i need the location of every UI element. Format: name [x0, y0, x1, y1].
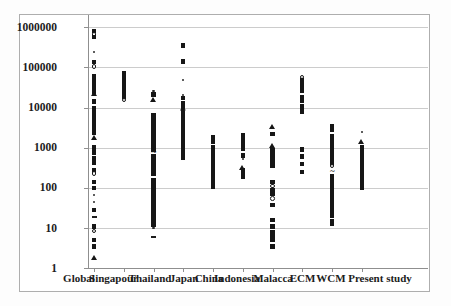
data-point	[92, 64, 97, 69]
data-point	[181, 96, 185, 100]
data-point	[300, 147, 304, 151]
data-point	[92, 99, 96, 103]
y-tick-1000000	[84, 27, 88, 28]
data-point	[270, 244, 274, 248]
gridline-1000000	[88, 27, 428, 28]
data-point	[270, 196, 275, 201]
data-point	[358, 139, 364, 144]
gridline-100	[88, 188, 428, 189]
scatter-chart-figure: 1000000100000100001000100101 GlobalSinga…	[0, 0, 451, 306]
y-tick-1000	[84, 148, 88, 149]
data-point	[151, 92, 155, 96]
data-point	[300, 154, 304, 158]
y-axis-label-100: 100	[11, 181, 57, 193]
data-point	[300, 99, 304, 103]
y-axis-label-1000000: 1000000	[11, 21, 57, 33]
y-tick-10	[84, 228, 88, 229]
data-point	[150, 97, 156, 102]
data-point	[92, 186, 96, 190]
data-point	[241, 146, 245, 150]
y-tick-100	[84, 188, 88, 189]
y-axis-label-1: 1	[11, 262, 57, 274]
y-axis-label-1000: 1000	[11, 141, 57, 153]
data-point	[92, 238, 96, 242]
data-point	[270, 224, 274, 228]
data-point	[91, 91, 97, 96]
data-point	[300, 162, 304, 166]
x-axis-label-present-study: Present study	[348, 272, 412, 284]
data-point	[361, 131, 363, 133]
data-point	[270, 132, 274, 136]
data-point	[91, 255, 97, 260]
data-point	[122, 98, 127, 103]
gridline-10	[88, 228, 428, 229]
y-axis-line	[88, 15, 89, 268]
data-point	[330, 214, 334, 218]
data-point	[92, 216, 97, 218]
data-point	[93, 201, 95, 203]
y-axis-label-10: 10	[11, 222, 57, 234]
data-point	[300, 170, 304, 174]
data-point	[211, 140, 215, 144]
y-axis-label-100000: 100000	[11, 61, 57, 73]
data-point	[300, 89, 304, 93]
data-point	[151, 236, 156, 238]
data-point	[270, 238, 274, 242]
y-tick-100000	[84, 67, 88, 68]
data-point	[92, 244, 96, 248]
data-point	[181, 43, 185, 47]
data-point	[360, 186, 364, 190]
data-point	[92, 151, 96, 155]
y-tick-10000	[84, 108, 88, 109]
x-axis-label-malacca: Malacca	[253, 272, 293, 284]
gridline-10000	[88, 108, 428, 109]
data-point	[330, 222, 334, 226]
data-point	[92, 208, 96, 212]
data-point	[181, 59, 185, 63]
x-axis-label-wcm: WCM	[316, 272, 345, 284]
data-point	[92, 224, 96, 228]
data-point	[181, 156, 185, 160]
data-point	[92, 180, 96, 184]
y-tick-1	[84, 268, 88, 269]
data-point	[270, 218, 274, 222]
data-point	[91, 135, 97, 140]
data-point	[269, 124, 275, 129]
y-axis-label-10000: 10000	[11, 101, 57, 113]
data-point	[92, 160, 96, 164]
data-point	[92, 35, 96, 39]
x-axis-label-ecm: ECM	[290, 272, 316, 284]
x-axis-line	[88, 268, 428, 269]
data-point	[300, 109, 304, 113]
data-point	[241, 175, 245, 179]
data-point	[330, 128, 334, 132]
data-point	[211, 184, 215, 188]
data-point	[151, 172, 155, 176]
data-point	[270, 203, 274, 207]
data-point	[152, 227, 154, 229]
data-point	[270, 164, 274, 168]
gridline-1000	[88, 148, 428, 149]
x-axis-label-thailand: Thailand	[129, 272, 172, 284]
data-point: ~	[330, 169, 335, 173]
gridline-100000	[88, 67, 428, 68]
data-point	[300, 104, 304, 108]
chart-area-border	[19, 14, 430, 292]
